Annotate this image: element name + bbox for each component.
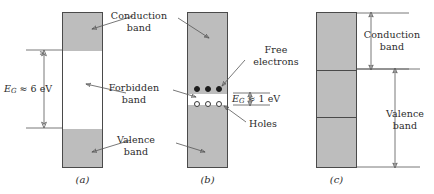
valence-band-line2: band xyxy=(124,146,148,157)
forbidden-band-line2: band xyxy=(122,94,146,105)
holes-text: Holes xyxy=(249,118,277,129)
label-free-electrons: Free electrons xyxy=(245,44,307,67)
panel-c-conduction-line2: band xyxy=(380,41,404,52)
panel-c-label-conduction-band: Conduction band xyxy=(355,29,429,52)
free-electron xyxy=(216,86,222,92)
panel-c-overlap-band xyxy=(317,70,356,118)
panel-b-valence-band xyxy=(188,105,227,167)
panel-c-valence-line2: band xyxy=(393,120,417,131)
free-electrons-line2: electrons xyxy=(253,56,299,67)
free-electron xyxy=(205,86,211,92)
panel-a-gap-subscript: G xyxy=(11,87,17,95)
panel-a-gap-symbol: E xyxy=(4,83,11,94)
panel-c-conduction-line1: Conduction xyxy=(364,29,420,40)
panel-b-conduction-band xyxy=(188,13,227,94)
energy-band-figure: Conduction band Forbidden band Valence b… xyxy=(0,0,434,194)
panel-a-gap-relation: ≈ xyxy=(20,83,28,94)
panel-b-gap-label: EG ≈ 1 eV xyxy=(232,93,280,105)
hole xyxy=(216,101,222,107)
panel-b-gap-subscript: G xyxy=(239,97,245,105)
label-holes: Holes xyxy=(249,118,277,130)
panel-a-gap-label: EG ≈ 6 eV xyxy=(4,83,52,95)
panel-a-gap-value: 6 eV xyxy=(31,83,53,94)
free-electrons-line1: Free xyxy=(265,44,288,55)
forbidden-band-line1: Forbidden xyxy=(109,82,159,93)
panel-c-valence-line1: Valence xyxy=(386,108,424,119)
panel-c-label-valence-band: Valence band xyxy=(376,108,434,131)
label-conduction-band: Conduction band xyxy=(96,10,182,33)
caption-a: (a) xyxy=(62,174,103,185)
conduction-band-line2: band xyxy=(127,22,151,33)
panel-c-conduction-band xyxy=(317,13,356,70)
valence-band-line1: Valence xyxy=(117,134,155,145)
panel-b-gap-symbol: E xyxy=(232,93,239,104)
hole xyxy=(194,101,200,107)
free-electron xyxy=(194,86,200,92)
hole xyxy=(205,101,211,107)
panel-b-gap-relation: ≈ xyxy=(248,93,256,104)
label-valence-band: Valence band xyxy=(94,134,178,157)
conduction-band-line1: Conduction xyxy=(111,10,167,21)
caption-b: (b) xyxy=(187,174,228,185)
panel-c-bar xyxy=(316,12,357,168)
label-forbidden-band: Forbidden band xyxy=(92,82,176,105)
panel-b-gap-value: 1 eV xyxy=(259,93,281,104)
panel-c-valence-band xyxy=(317,118,356,167)
caption-c: (c) xyxy=(316,174,357,185)
